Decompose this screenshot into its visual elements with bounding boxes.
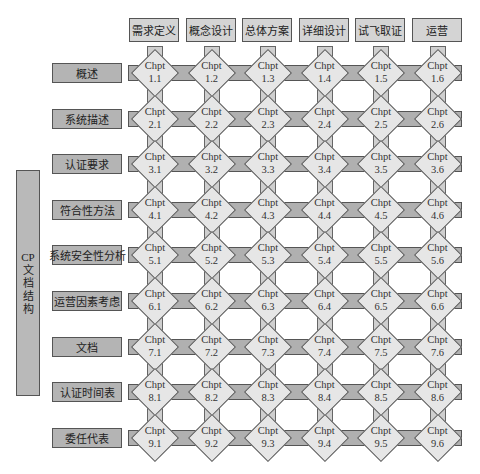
chapter-number: 4.1 <box>135 209 175 222</box>
chapter-number: 7.4 <box>305 346 345 359</box>
chapter-prefix: Chpt <box>305 287 345 300</box>
chapter-prefix: Chpt <box>418 241 458 254</box>
section-label-text: 符合性方法 <box>60 202 115 218</box>
chapter-prefix: Chpt <box>192 150 232 163</box>
chapter-number: 9.3 <box>248 437 288 450</box>
chapter-prefix: Chpt <box>135 333 175 346</box>
chapter-number: 8.3 <box>248 391 288 404</box>
cp-label-line: CP <box>21 251 34 264</box>
chapter-number: 4.5 <box>361 209 401 222</box>
chapter-prefix: Chpt <box>305 333 345 346</box>
chapter-number: 9.5 <box>361 437 401 450</box>
section-label-7: 文档 <box>52 337 122 357</box>
chapter-node-label: Chpt6.4 <box>305 287 345 317</box>
chapter-prefix: Chpt <box>135 150 175 163</box>
chapter-prefix: Chpt <box>135 241 175 254</box>
section-label-6: 运营因素考虑 <box>52 291 122 311</box>
chapter-prefix: Chpt <box>305 241 345 254</box>
chapter-node-label: Chpt8.6 <box>418 378 458 408</box>
chapter-number: 7.1 <box>135 346 175 359</box>
chapter-node-label: Chpt3.3 <box>248 150 288 180</box>
chapter-number: 1.5 <box>361 72 401 85</box>
phase-header-label: 概念设计 <box>189 22 233 38</box>
chapter-number: 5.2 <box>192 254 232 267</box>
chapter-prefix: Chpt <box>305 59 345 72</box>
chapter-node-label: Chpt3.6 <box>418 150 458 180</box>
section-label-text: 系统描述 <box>65 111 109 127</box>
chapter-node-label: Chpt1.5 <box>361 59 401 89</box>
chapter-prefix: Chpt <box>361 378 401 391</box>
chapter-prefix: Chpt <box>248 150 288 163</box>
chapter-prefix: Chpt <box>192 287 232 300</box>
chapter-number: 4.3 <box>248 209 288 222</box>
chapter-node-label: Chpt7.5 <box>361 333 401 363</box>
chapter-number: 5.4 <box>305 254 345 267</box>
chapter-node-label: Chpt7.1 <box>135 333 175 363</box>
chapter-number: 8.5 <box>361 391 401 404</box>
chapter-node-label: Chpt5.6 <box>418 241 458 271</box>
chapter-prefix: Chpt <box>135 59 175 72</box>
chapter-node-label: Chpt2.4 <box>305 105 345 135</box>
chapter-node-label: Chpt2.6 <box>418 105 458 135</box>
chapter-node-label: Chpt3.2 <box>192 150 232 180</box>
chapter-prefix: Chpt <box>361 241 401 254</box>
chapter-number: 1.4 <box>305 72 345 85</box>
phase-header-5: 试飞取证 <box>355 18 405 42</box>
chapter-number: 7.6 <box>418 346 458 359</box>
chapter-node-label: Chpt1.2 <box>192 59 232 89</box>
section-label-3: 认证要求 <box>52 154 122 174</box>
chapter-number: 5.3 <box>248 254 288 267</box>
phase-header-label: 总体方案 <box>245 22 289 38</box>
chapter-prefix: Chpt <box>135 105 175 118</box>
section-label-1: 概述 <box>52 63 122 83</box>
chapter-node-label: Chpt4.1 <box>135 196 175 226</box>
phase-header-6: 运营 <box>412 18 462 42</box>
chapter-number: 8.4 <box>305 391 345 404</box>
chapter-prefix: Chpt <box>361 424 401 437</box>
phase-header-1: 需求定义 <box>129 18 179 42</box>
chapter-prefix: Chpt <box>305 424 345 437</box>
chapter-number: 6.1 <box>135 300 175 313</box>
chapter-prefix: Chpt <box>418 424 458 437</box>
chapter-number: 3.2 <box>192 163 232 176</box>
chapter-number: 6.5 <box>361 300 401 313</box>
chapter-node-label: Chpt2.1 <box>135 105 175 135</box>
chapter-prefix: Chpt <box>418 333 458 346</box>
chapter-prefix: Chpt <box>305 378 345 391</box>
chapter-node-label: Chpt5.1 <box>135 241 175 271</box>
chapter-number: 8.2 <box>192 391 232 404</box>
chapter-number: 9.2 <box>192 437 232 450</box>
chapter-prefix: Chpt <box>248 105 288 118</box>
chapter-number: 3.4 <box>305 163 345 176</box>
chapter-number: 6.3 <box>248 300 288 313</box>
chapter-prefix: Chpt <box>248 287 288 300</box>
chapter-prefix: Chpt <box>135 424 175 437</box>
chapter-prefix: Chpt <box>418 287 458 300</box>
chapter-number: 2.1 <box>135 118 175 131</box>
cp-label-line: 构 <box>23 303 34 316</box>
chapter-prefix: Chpt <box>248 196 288 209</box>
chapter-number: 8.1 <box>135 391 175 404</box>
chapter-prefix: Chpt <box>361 196 401 209</box>
chapter-node-label: Chpt4.3 <box>248 196 288 226</box>
chapter-number: 1.6 <box>418 72 458 85</box>
cp-label-line: 文 <box>23 264 34 277</box>
section-label-8: 认证时间表 <box>52 382 122 402</box>
chapter-node-label: Chpt8.5 <box>361 378 401 408</box>
cp-label-line: 结 <box>23 290 34 303</box>
chapter-prefix: Chpt <box>248 378 288 391</box>
chapter-node-label: Chpt5.3 <box>248 241 288 271</box>
chapter-prefix: Chpt <box>361 59 401 72</box>
section-label-text: 认证时间表 <box>60 384 115 400</box>
chapter-number: 5.5 <box>361 254 401 267</box>
chapter-number: 3.1 <box>135 163 175 176</box>
chapter-node-label: Chpt1.4 <box>305 59 345 89</box>
chapter-node-label: Chpt4.2 <box>192 196 232 226</box>
chapter-node-label: Chpt6.2 <box>192 287 232 317</box>
chapter-node-label: Chpt9.3 <box>248 424 288 454</box>
phase-header-label: 运营 <box>426 22 448 38</box>
chapter-prefix: Chpt <box>418 59 458 72</box>
chapter-prefix: Chpt <box>361 105 401 118</box>
chapter-prefix: Chpt <box>192 59 232 72</box>
chapter-prefix: Chpt <box>192 378 232 391</box>
